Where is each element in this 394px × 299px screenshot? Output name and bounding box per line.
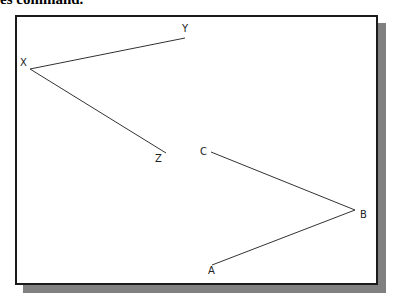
polyline-abc	[211, 152, 355, 265]
label-y: Y	[181, 23, 189, 34]
line-diagram: Y X Z C B A	[0, 0, 394, 299]
label-c: C	[200, 146, 207, 157]
label-z: Z	[155, 153, 162, 164]
label-b: B	[360, 209, 367, 220]
label-x: X	[20, 57, 27, 68]
label-a: A	[208, 265, 215, 276]
polyline-xyz	[30, 38, 185, 153]
